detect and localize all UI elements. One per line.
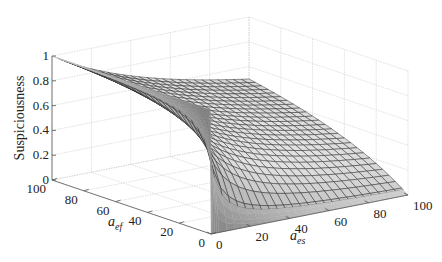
y-axis-label: aef [108, 214, 123, 232]
z-tick-label: 0.8 [33, 73, 49, 88]
wall-gridline [249, 17, 408, 71]
z-tick-label: 1 [43, 48, 50, 63]
x-axis-label-sub: es [297, 235, 305, 246]
x-tick-label: 0 [216, 237, 223, 252]
y-tick [147, 211, 152, 213]
surface-patch [233, 219, 242, 224]
z-axis-label: Suspiciousness [12, 76, 27, 161]
y-axis-label-main: a [108, 214, 115, 229]
z-tick-label: 0.2 [33, 147, 49, 162]
y-tick-label: 80 [65, 192, 78, 207]
surface-plot: 00.20.40.60.81020406080100020406080100 S… [0, 0, 442, 262]
y-tick-label: 100 [27, 181, 47, 196]
wall-gridline [52, 17, 249, 56]
y-tick-label: 20 [160, 224, 173, 239]
y-tick-label: 40 [128, 213, 141, 228]
x-axis-label-main: a [290, 228, 297, 243]
wall-gridline [249, 42, 408, 96]
y-tick-label: 0 [199, 235, 206, 250]
y-axis-label-sub: ef [115, 221, 123, 232]
wall-gridline [52, 42, 249, 81]
z-tick-label: 0.6 [33, 98, 50, 113]
z-tick-label: 0.4 [33, 122, 50, 137]
x-tick-label: 80 [374, 206, 387, 221]
y-tick [84, 189, 89, 191]
y-tick [116, 200, 121, 202]
x-tick-label: 60 [334, 214, 347, 229]
y-tick [179, 222, 184, 224]
x-tick-label: 20 [255, 229, 268, 244]
x-tick-label: 100 [413, 198, 433, 213]
